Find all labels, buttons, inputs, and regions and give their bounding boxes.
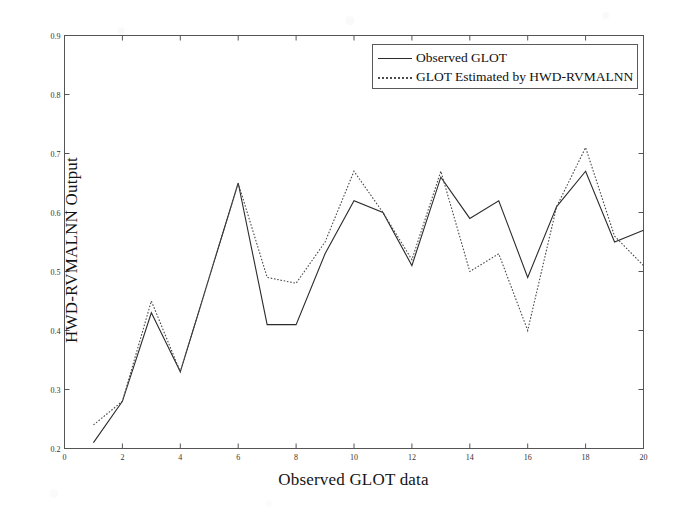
x-tick-label: 16	[524, 453, 532, 462]
legend-entry-observed: Observed GLOT	[378, 48, 632, 67]
chart-figure: HWD-RVMALNN Output Observed GLOT data 02…	[0, 0, 673, 514]
y-tick-label: 0.3	[41, 385, 61, 394]
y-tick-label: 0.7	[41, 149, 61, 158]
x-tick-label: 2	[120, 453, 124, 462]
legend-label-estimated: GLOT Estimated by HWD-RVMALNN	[416, 70, 633, 84]
chart-legend: Observed GLOT GLOT Estimated by HWD-RVMA…	[372, 44, 638, 89]
y-tick-label: 0.6	[41, 208, 61, 217]
y-tick-label: 0.2	[41, 444, 61, 453]
x-tick-label: 18	[582, 453, 590, 462]
y-axis-title: HWD-RVMALNN Output	[62, 120, 82, 380]
y-tick-label: 0.5	[41, 267, 61, 276]
x-tick-label: 14	[466, 453, 474, 462]
series-line-observed	[93, 171, 643, 442]
legend-label-observed: Observed GLOT	[416, 51, 507, 65]
y-tick-label: 0.8	[41, 90, 61, 99]
x-tick-label: 6	[236, 453, 240, 462]
x-tick-label: 0	[63, 453, 67, 462]
legend-line-sample-solid-icon	[378, 53, 412, 63]
series-line-estimated	[93, 148, 643, 425]
x-tick-label: 4	[178, 453, 182, 462]
x-tick-label: 20	[640, 453, 648, 462]
y-tick-label: 0.9	[41, 31, 61, 40]
plot-frame	[65, 36, 644, 449]
x-tick-label: 8	[294, 453, 298, 462]
y-tick-label: 0.4	[41, 326, 61, 335]
x-axis-title: Observed GLOT data	[64, 470, 643, 490]
x-tick-label: 10	[350, 453, 358, 462]
legend-entry-estimated: GLOT Estimated by HWD-RVMALNN	[378, 67, 632, 86]
legend-line-sample-dotted-icon	[378, 72, 412, 82]
x-tick-label: 12	[408, 453, 416, 462]
